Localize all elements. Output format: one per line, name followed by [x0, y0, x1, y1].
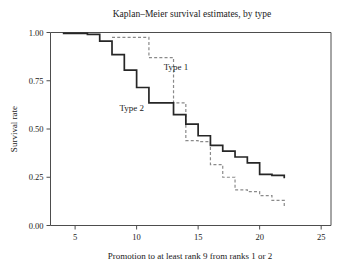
- y-tick-label: 0.00: [29, 221, 44, 231]
- series-line-type-2: [63, 33, 284, 178]
- y-tick-label: 0.50: [29, 124, 44, 134]
- y-axis-title: Survival rate: [9, 106, 19, 152]
- x-tick-label: 25: [317, 232, 326, 242]
- x-axis-title: Promotion to at least rank 9 from ranks …: [108, 251, 272, 261]
- y-tick-label: 0.25: [29, 172, 44, 182]
- chart-title: Kaplan–Meier survival estimates, by type: [113, 9, 272, 19]
- series-line-type-1: [112, 37, 284, 208]
- series-curves: [63, 33, 284, 208]
- x-tick-label: 20: [255, 232, 264, 242]
- x-tick-label: 10: [132, 232, 141, 242]
- y-tick-label: 0.75: [29, 76, 44, 86]
- x-axis-ticks: 510152025: [73, 226, 325, 242]
- series-label-type-1: Type 1: [164, 62, 189, 72]
- x-tick-label: 5: [73, 232, 77, 242]
- y-axis-ticks: 0.000.250.500.751.00: [29, 28, 51, 231]
- kaplan-meier-plot: Kaplan–Meier survival estimates, by type…: [0, 0, 349, 267]
- plot-frame: [51, 33, 332, 226]
- x-tick-label: 15: [194, 232, 203, 242]
- series-label-type-2: Type 2: [119, 103, 144, 113]
- chart-figure: Kaplan–Meier survival estimates, by type…: [0, 0, 349, 267]
- y-tick-label: 1.00: [29, 28, 44, 38]
